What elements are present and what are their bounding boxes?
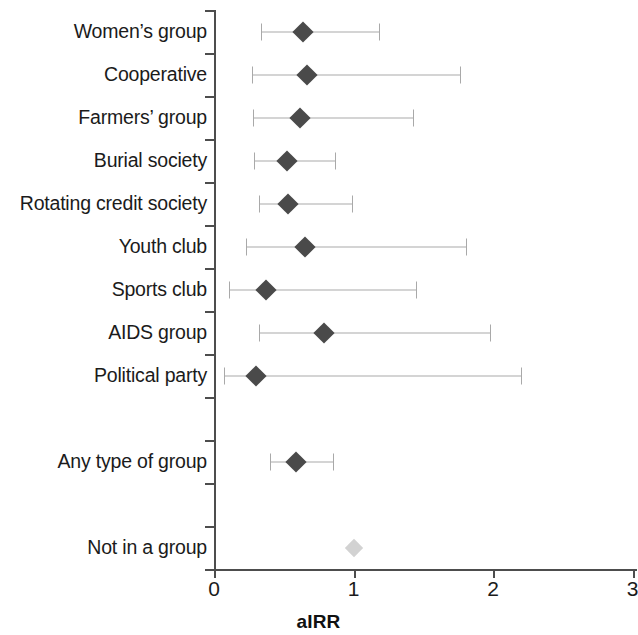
confidence-interval-cap [333, 453, 334, 470]
point-estimate-marker [294, 236, 315, 257]
confidence-interval-cap [224, 367, 225, 384]
y-axis-tick [205, 139, 214, 141]
confidence-interval-cap [253, 109, 254, 126]
category-label: Women’s group [74, 22, 207, 42]
confidence-interval-line [259, 332, 491, 333]
y-axis-tick [205, 268, 214, 270]
confidence-interval-cap [413, 109, 414, 126]
confidence-interval-cap [229, 281, 230, 298]
x-tick-label: 3 [627, 578, 638, 599]
confidence-interval-cap [254, 152, 255, 169]
confidence-interval-cap [466, 238, 467, 255]
confidence-interval-line [259, 203, 352, 204]
reference-point-marker [344, 538, 362, 556]
confidence-interval-cap [521, 367, 522, 384]
category-label: Rotating credit society [20, 194, 207, 214]
y-axis-line [214, 10, 216, 570]
point-estimate-marker [290, 107, 311, 128]
y-axis-tick [205, 526, 214, 528]
confidence-interval-line [253, 117, 413, 118]
point-estimate-marker [245, 365, 266, 386]
confidence-interval-cap [490, 324, 491, 341]
x-axis-line [214, 569, 637, 571]
category-label: Not in a group [87, 538, 207, 558]
y-axis-tick [205, 354, 214, 356]
category-label: Sports club [112, 280, 207, 300]
point-estimate-marker [314, 322, 335, 343]
confidence-interval-cap [379, 23, 380, 40]
point-estimate-marker [276, 150, 297, 171]
category-label: AIDS group [108, 323, 207, 343]
y-axis-tick [205, 225, 214, 227]
point-estimate-marker [255, 279, 276, 300]
category-label: Farmers’ group [78, 108, 207, 128]
confidence-interval-cap [335, 152, 336, 169]
y-axis-tick [205, 483, 214, 485]
category-label: Youth club [119, 237, 207, 257]
confidence-interval-cap [252, 66, 253, 83]
confidence-interval-cap [259, 324, 260, 341]
category-label: Political party [94, 366, 207, 386]
point-estimate-marker [277, 193, 298, 214]
confidence-interval-cap [270, 453, 271, 470]
x-tick-label: 0 [208, 578, 220, 599]
confidence-interval-line [246, 246, 466, 247]
confidence-interval-cap [352, 195, 353, 212]
x-tick-label: 1 [348, 578, 360, 599]
confidence-interval-cap [259, 195, 260, 212]
confidence-interval-line [252, 74, 460, 75]
y-axis-tick [205, 182, 214, 184]
y-axis-tick [205, 10, 214, 12]
point-estimate-marker [293, 21, 314, 42]
y-axis-tick [205, 96, 214, 98]
category-label: Cooperative [104, 65, 207, 85]
y-axis-tick [205, 569, 214, 571]
y-axis-tick [205, 397, 214, 399]
category-label: Burial society [94, 151, 207, 171]
category-label: Any type of group [58, 452, 207, 472]
y-axis-tick [205, 440, 214, 442]
y-axis-tick [205, 53, 214, 55]
confidence-interval-cap [261, 23, 262, 40]
confidence-interval-cap [416, 281, 417, 298]
confidence-interval-cap [460, 66, 461, 83]
x-axis-title: aIRR [0, 612, 637, 631]
y-axis-tick [205, 311, 214, 313]
confidence-interval-cap [246, 238, 247, 255]
x-tick-label: 2 [487, 578, 499, 599]
point-estimate-marker [286, 451, 307, 472]
confidence-interval-line [261, 31, 378, 32]
confidence-interval-line [224, 375, 521, 376]
point-estimate-marker [297, 64, 318, 85]
